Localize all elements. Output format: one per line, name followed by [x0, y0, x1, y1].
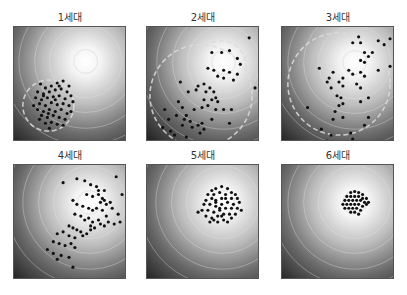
individual-point	[216, 220, 219, 223]
individual-point	[367, 116, 370, 119]
individual-point	[105, 215, 108, 218]
individual-point	[335, 94, 338, 97]
individual-point	[195, 88, 198, 91]
individual-point	[202, 203, 205, 206]
individual-point	[347, 69, 350, 72]
individual-point	[40, 114, 43, 117]
individual-point	[351, 207, 354, 210]
individual-point	[71, 266, 74, 269]
individual-point	[367, 201, 370, 204]
individual-point	[363, 61, 366, 64]
individual-point	[361, 193, 364, 196]
individual-point	[40, 98, 43, 101]
individual-point	[73, 236, 76, 239]
generation-panel	[13, 26, 126, 141]
individual-point	[357, 213, 360, 216]
individual-point	[357, 203, 360, 206]
individual-point	[341, 203, 344, 206]
individual-point	[54, 110, 57, 113]
individual-point	[349, 211, 352, 214]
individual-point	[46, 116, 49, 119]
individual-point	[347, 199, 350, 202]
individual-point	[357, 35, 360, 38]
individual-point	[50, 121, 53, 124]
individual-point	[349, 132, 352, 135]
individual-point	[216, 215, 219, 218]
individual-point	[236, 207, 239, 210]
individual-point	[341, 77, 344, 80]
individual-point	[167, 118, 170, 121]
individual-point	[349, 203, 352, 206]
individual-point	[38, 118, 41, 121]
generation-panel	[146, 26, 259, 141]
individual-point	[58, 94, 61, 97]
individual-point	[345, 203, 348, 206]
individual-point	[89, 183, 92, 186]
individual-point	[175, 114, 178, 117]
individual-point	[206, 209, 209, 212]
individual-point	[208, 220, 211, 223]
individual-point	[73, 246, 76, 249]
individual-point	[228, 213, 231, 216]
individual-point	[62, 79, 65, 82]
individual-point	[73, 213, 76, 216]
individual-point	[89, 224, 92, 227]
individual-point	[103, 224, 106, 227]
individual-point	[351, 73, 354, 76]
individual-point	[222, 108, 225, 111]
individual-point	[357, 195, 360, 198]
individual-point	[359, 71, 362, 74]
individual-point	[234, 193, 237, 196]
individual-point	[44, 122, 47, 125]
individual-point	[210, 197, 213, 200]
individual-point	[216, 75, 219, 78]
individual-point	[69, 94, 72, 97]
individual-point	[62, 102, 65, 105]
individual-point	[230, 197, 233, 200]
individual-point	[355, 207, 358, 210]
individual-point	[38, 102, 41, 105]
individual-point	[42, 94, 45, 97]
individual-point	[226, 201, 229, 204]
individual-point	[206, 193, 209, 196]
individual-point	[365, 197, 368, 200]
individual-point	[58, 116, 61, 119]
individual-point	[44, 86, 47, 89]
individual-point	[359, 199, 362, 202]
individual-point	[230, 108, 233, 111]
individual-point	[236, 197, 239, 200]
individual-point	[349, 191, 352, 194]
individual-point	[230, 216, 233, 219]
individual-point	[65, 112, 68, 115]
individual-point	[87, 216, 90, 219]
individual-point	[62, 124, 65, 127]
individual-point	[208, 86, 211, 89]
individual-point	[39, 82, 42, 85]
individual-point	[353, 195, 356, 198]
individual-point	[107, 220, 110, 223]
individual-point	[181, 106, 184, 109]
individual-point	[228, 122, 231, 125]
individual-point	[224, 207, 227, 210]
individual-point	[351, 41, 354, 44]
individual-point	[48, 127, 51, 130]
individual-point	[347, 207, 350, 210]
individual-point	[339, 96, 342, 99]
individual-point	[337, 104, 340, 107]
individual-point	[214, 205, 217, 208]
individual-point	[204, 215, 207, 218]
individual-point	[330, 134, 333, 137]
individual-point	[47, 112, 50, 115]
individual-point	[64, 244, 67, 247]
individual-point	[99, 201, 102, 204]
individual-point	[83, 218, 86, 221]
individual-point	[234, 213, 237, 216]
individual-point	[109, 201, 112, 204]
individual-point	[332, 118, 335, 121]
individual-point	[173, 134, 176, 137]
individual-point	[75, 177, 78, 180]
individual-point	[210, 118, 213, 121]
individual-point	[230, 207, 233, 210]
individual-point	[117, 213, 120, 216]
individual-point	[32, 104, 35, 107]
